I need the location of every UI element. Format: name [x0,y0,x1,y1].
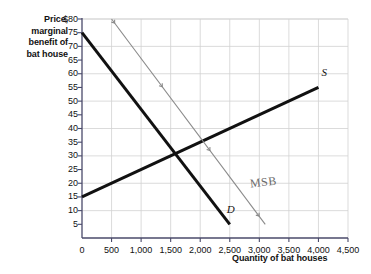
x-axis-title: Quantity of bat houses [232,253,327,263]
axis-ticks [78,19,348,242]
demand-curve-label: D [227,203,235,215]
supply-demand-chart: Price, marginal benefit of bat house 510… [0,0,371,274]
plot-area [0,0,371,274]
supply-curve-label: S [321,66,327,78]
